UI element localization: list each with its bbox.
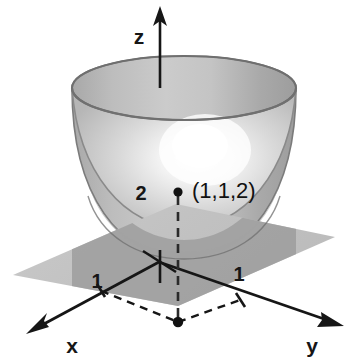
y-axis-label: y [306,334,318,357]
x-tick-label-1: 1 [91,270,102,292]
paraboloid-figure: z x y 2 1 1 (1,1,2) [0,0,361,361]
point-on-surface[interactable] [173,187,182,196]
figure-canvas: z x y 2 1 1 (1,1,2) [0,0,361,361]
y-tick-label-1: 1 [233,263,244,285]
z-tick-label-2: 2 [135,182,146,204]
point-on-ground[interactable] [173,317,183,327]
z-axis-label: z [134,25,145,48]
x-axis-label: x [66,334,78,357]
point-coordinate-label: (1,1,2) [192,178,256,203]
